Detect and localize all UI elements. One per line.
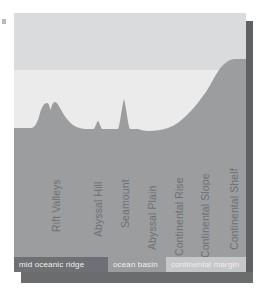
feature-label-continental-rise: Continental Rise (173, 177, 185, 256)
feature-label-abyssal-hill: Abyssal Hill (92, 182, 104, 237)
legend-segment-continental-margin: continental margin (166, 257, 246, 272)
ocean-floor-diagram: Rift Valleys Abyssal Hill Seamount Abyss… (0, 0, 266, 297)
zone-legend-bar: mid oceanic ridge ocean basin continenta… (14, 257, 246, 272)
feature-label-rift-valleys: Rift Valleys (50, 179, 62, 232)
legend-segment-ocean-basin: ocean basin (108, 257, 166, 272)
legend-segment-mid-oceanic-ridge: mid oceanic ridge (14, 257, 108, 272)
seafloor-path (14, 59, 246, 272)
diagram-plate (14, 13, 246, 272)
corner-tick-mark (2, 19, 6, 24)
feature-label-continental-slope: Continental Slope (199, 173, 211, 258)
seafloor-silhouette (14, 13, 246, 272)
feature-label-seamount: Seamount (119, 179, 131, 228)
legend-drop-shadow (21, 272, 253, 283)
feature-label-abyssal-plain: Abyssal Plain (146, 186, 158, 250)
feature-label-continental-shelf: Continental Shelf (228, 168, 240, 250)
